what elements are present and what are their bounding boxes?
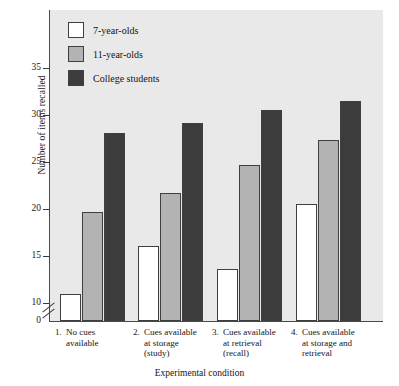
x-category-number-2: 2. <box>133 327 140 338</box>
legend-label-7-year-olds: 7-year-olds <box>93 25 138 36</box>
legend-label-11-year-olds: 11-year-olds <box>93 49 143 60</box>
x-category-number-4: 4. <box>291 327 298 338</box>
legend-label-college-students: College students <box>93 73 159 84</box>
x-category-3-line-3: (recall) <box>223 348 276 359</box>
x-axis-title: Experimental condition <box>0 368 399 378</box>
y-tick-label-0: 0 <box>36 315 41 325</box>
legend: 7-year-olds 11-year-olds College student… <box>68 18 159 90</box>
bar-g1-dark <box>104 133 125 321</box>
legend-item-college-students: College students <box>68 66 159 90</box>
bar-g2-white <box>138 246 159 321</box>
bar-g4-dark <box>340 101 361 321</box>
legend-swatch-7-year-olds <box>68 22 84 38</box>
y-axis-line <box>49 10 50 322</box>
x-category-1-line-2: available <box>66 338 98 349</box>
y-tick-15 <box>43 256 50 257</box>
x-category-label-4: 4.Cues availableat storage andretrieval <box>291 327 355 359</box>
x-category-2-line-2: at storage <box>144 338 197 349</box>
legend-swatch-11-year-olds <box>68 46 84 62</box>
y-tick-label-25: 25 <box>32 156 42 166</box>
y-tick-10 <box>43 303 50 304</box>
bar-g4-gray <box>318 140 339 321</box>
y-tick-label-15: 15 <box>32 250 42 260</box>
y-tick-20 <box>43 209 50 210</box>
x-axis-line <box>49 321 383 322</box>
x-category-4-line-3: retrieval <box>302 348 355 359</box>
y-tick-label-10: 10 <box>32 297 42 307</box>
x-category-label-1: 1.No cuesavailable <box>55 327 98 348</box>
x-category-number-1: 1. <box>55 327 62 338</box>
x-category-3-line-1: Cues available <box>223 327 276 338</box>
x-category-2-line-1: Cues available <box>144 327 197 338</box>
x-category-4-line-2: at storage and <box>302 338 355 349</box>
x-category-1-line-1: No cues <box>66 327 98 338</box>
y-tick-label-30: 30 <box>32 109 42 119</box>
y-tick-35 <box>43 68 50 69</box>
x-category-3-line-2: at retrieval <box>223 338 276 349</box>
y-tick-25 <box>43 162 50 163</box>
y-tick-label-35: 35 <box>32 62 42 72</box>
legend-item-11-year-olds: 11-year-olds <box>68 42 159 66</box>
x-category-label-2: 2.Cues availableat storage(study) <box>133 327 197 359</box>
bar-g3-dark <box>261 110 282 321</box>
legend-item-7-year-olds: 7-year-olds <box>68 18 159 42</box>
x-category-label-3: 3.Cues availableat retrieval(recall) <box>212 327 276 359</box>
bar-chart-figure: Number of items recalled 1015202530350 7… <box>0 0 399 386</box>
bar-g2-gray <box>160 193 181 321</box>
x-category-2-line-3: (study) <box>144 348 197 359</box>
x-category-number-3: 3. <box>212 327 219 338</box>
bar-g3-white <box>217 269 238 321</box>
bar-g2-dark <box>182 123 203 321</box>
y-tick-label-20: 20 <box>32 203 42 213</box>
bar-g4-white <box>296 204 317 321</box>
bar-g3-gray <box>239 165 260 321</box>
x-category-4-line-1: Cues available <box>302 327 355 338</box>
bar-g1-gray <box>82 212 103 321</box>
legend-swatch-college-students <box>68 70 84 86</box>
bar-g1-white <box>60 294 81 321</box>
y-tick-30 <box>43 115 50 116</box>
